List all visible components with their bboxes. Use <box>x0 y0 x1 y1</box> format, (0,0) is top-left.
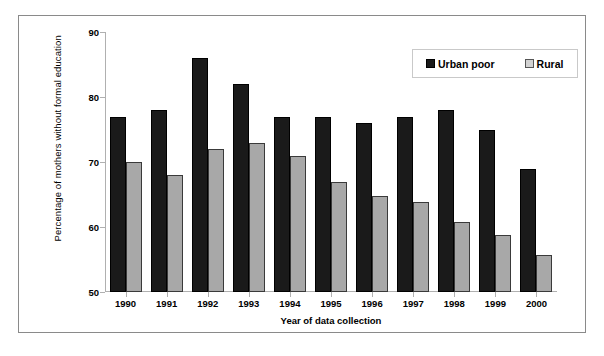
urban-poor-swatch-icon <box>426 59 435 68</box>
x-tick-label-1998: 1998 <box>434 298 475 309</box>
bar-rural-1993 <box>249 143 265 293</box>
bar-group-1992 <box>187 32 228 292</box>
y-tick-label-80: 80 <box>71 92 99 103</box>
bar-rural-1996 <box>372 196 388 292</box>
x-tick-mark-1998 <box>454 292 455 297</box>
bar-group-1990 <box>105 32 146 292</box>
y-tick-label-50: 50 <box>71 287 99 298</box>
x-tick-label-1999: 1999 <box>475 298 516 309</box>
x-tick-mark-1997 <box>413 292 414 297</box>
legend-label-urban-poor: Urban poor <box>438 58 495 70</box>
x-tick-mark-1992 <box>208 292 209 297</box>
y-axis-title: Percentage of mothers without formal edu… <box>52 42 63 242</box>
bar-urban-poor-2000 <box>520 169 536 293</box>
bar-urban-poor-1997 <box>397 117 413 293</box>
bar-rural-1992 <box>208 149 224 292</box>
x-tick-mark-1994 <box>290 292 291 297</box>
x-tick-label-1991: 1991 <box>146 298 187 309</box>
x-tick-mark-1990 <box>126 292 127 297</box>
bar-rural-1990 <box>126 162 142 292</box>
bar-rural-2000 <box>536 255 552 292</box>
bar-group-1993 <box>228 32 269 292</box>
bar-rural-1999 <box>495 235 511 292</box>
chart-frame: Percentage of mothers without formal edu… <box>18 15 586 333</box>
x-tick-label-1990: 1990 <box>105 298 146 309</box>
x-tick-label-1994: 1994 <box>269 298 310 309</box>
x-tick-label-1997: 1997 <box>393 298 434 309</box>
y-tick-mark-50 <box>100 292 105 293</box>
bar-rural-1997 <box>413 202 429 292</box>
bar-urban-poor-1990 <box>110 117 126 293</box>
bar-group-1995 <box>310 32 351 292</box>
bar-urban-poor-1992 <box>192 58 208 292</box>
chart-legend: Urban poor Rural <box>412 49 578 78</box>
bar-rural-1991 <box>167 175 183 292</box>
bar-urban-poor-1994 <box>274 117 290 293</box>
bar-urban-poor-1999 <box>479 130 495 293</box>
x-tick-label-1993: 1993 <box>228 298 269 309</box>
x-tick-mark-1993 <box>249 292 250 297</box>
bar-rural-1998 <box>454 222 470 292</box>
y-tick-label-60: 60 <box>71 222 99 233</box>
bar-urban-poor-1995 <box>315 117 331 293</box>
bar-group-1994 <box>269 32 310 292</box>
bar-urban-poor-1998 <box>438 110 454 292</box>
x-tick-mark-1991 <box>167 292 168 297</box>
x-tick-label-2000: 2000 <box>516 298 557 309</box>
x-tick-label-1996: 1996 <box>352 298 393 309</box>
y-tick-label-70: 70 <box>71 157 99 168</box>
bar-urban-poor-1991 <box>151 110 167 292</box>
bar-rural-1994 <box>290 156 306 293</box>
x-tick-mark-1995 <box>331 292 332 297</box>
x-axis-title: Year of data collection <box>105 315 557 326</box>
bar-group-1991 <box>146 32 187 292</box>
bar-urban-poor-1993 <box>233 84 249 292</box>
bar-rural-1995 <box>331 182 347 293</box>
x-tick-label-1995: 1995 <box>310 298 351 309</box>
x-tick-mark-2000 <box>536 292 537 297</box>
x-tick-label-container: 1990199119921993199419951996199719981999… <box>105 298 557 309</box>
bar-group-1996 <box>352 32 393 292</box>
legend-label-rural: Rural <box>537 58 564 70</box>
x-tick-mark-1999 <box>495 292 496 297</box>
x-tick-label-1992: 1992 <box>187 298 228 309</box>
rural-swatch-icon <box>525 59 534 68</box>
legend-entry-urban-poor: Urban poor <box>426 58 495 70</box>
legend-entry-rural: Rural <box>525 58 564 70</box>
y-tick-label-90: 90 <box>71 27 99 38</box>
x-tick-mark-1996 <box>372 292 373 297</box>
bar-urban-poor-1996 <box>356 123 372 292</box>
